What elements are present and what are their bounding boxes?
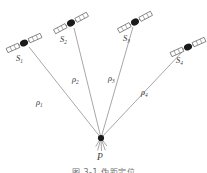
satellite-2-label: S2 <box>60 35 67 44</box>
satellite-1-body <box>19 38 29 47</box>
satellite-2-boom <box>66 25 67 26</box>
satellite-1-label: S1 <box>16 54 23 63</box>
satellite-3-boom <box>139 19 140 20</box>
satellite-2-boom <box>75 20 76 21</box>
satellite-1-solar-panel-1 <box>6 43 20 52</box>
satellite-3-body <box>130 17 140 27</box>
satellite-2-solar-panel-2 <box>75 12 89 22</box>
figure-caption: 图 3-1 伪距定位 <box>0 166 207 173</box>
satellite-4-boom <box>192 45 193 46</box>
figure-container: PS1S2S3S4ρ1ρ2ρ3ρ4 图 3-1 伪距定位 <box>0 0 207 173</box>
satellite-4-solar-panel-2 <box>192 37 206 46</box>
satellite-2-solar-panel-1 <box>53 24 67 34</box>
satellite-2 <box>53 12 88 34</box>
satellite-1-boom <box>28 41 29 42</box>
satellite-1 <box>6 33 42 52</box>
receiver-label: P <box>97 153 103 163</box>
pseudorange-4-label: ρ4 <box>141 88 148 97</box>
satellite-4-label: S4 <box>176 56 183 65</box>
satellite-2-body <box>66 18 76 28</box>
satellite-4-boom <box>183 49 184 50</box>
satellite-3-solar-panel-2 <box>139 11 153 21</box>
pseudorange-2-label: ρ2 <box>72 75 79 84</box>
pseudorange-3-label: ρ3 <box>108 74 115 83</box>
satellite-3 <box>117 11 152 33</box>
diagram-canvas <box>0 0 207 173</box>
satellite-3-solar-panel-1 <box>117 23 131 33</box>
satellite-1-solar-panel-2 <box>28 33 42 42</box>
satellite-4 <box>170 37 206 56</box>
receiver-point <box>98 135 104 141</box>
pseudorange-1-label: ρ1 <box>36 98 43 107</box>
satellite-3-label: S3 <box>123 34 130 43</box>
satellite-3-boom <box>130 24 131 25</box>
satellite-1-boom <box>19 45 20 46</box>
satellite-4-body <box>183 42 193 51</box>
